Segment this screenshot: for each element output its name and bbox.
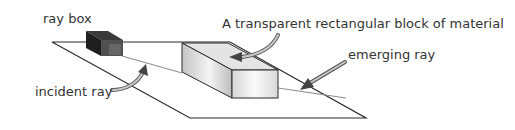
emerging-ray-arrow-icon [300, 62, 345, 90]
incident-ray-label: incident ray [35, 85, 112, 98]
emerging-ray-label: emerging ray [348, 48, 435, 61]
ray-box-label: ray box [43, 12, 92, 25]
block-label: A transparent rectangular block of mater… [222, 17, 504, 30]
